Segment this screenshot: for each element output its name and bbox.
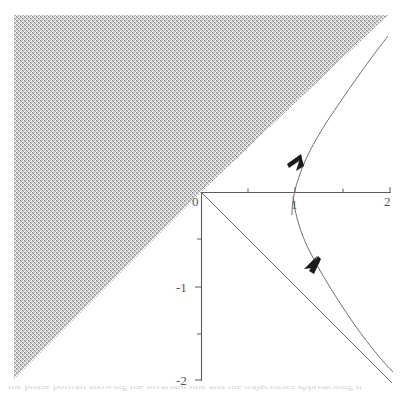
y-axis-ticks — [195, 239, 202, 380]
caption-strip: the phase portrait showing the invariant… — [0, 386, 402, 397]
x-tick-label-1: 1 — [291, 198, 298, 211]
figure-caption: the phase portrait showing the invariant… — [8, 386, 362, 391]
asymptote-line-negative-slope — [201, 192, 392, 383]
separatrix-lower-branch — [293, 196, 393, 372]
arrow-lower-icon — [304, 256, 321, 274]
x-tick-label-2: 2 — [384, 195, 391, 208]
x-axis-ticks — [248, 187, 390, 193]
y-tick-label-minus-1: -1 — [176, 281, 187, 294]
figure-container: 0 1 2 -1 -2 the phase portrait showing t… — [0, 0, 402, 397]
plot-canvas — [0, 0, 402, 397]
x-tick-label-0: 0 — [192, 195, 199, 208]
y-axis — [195, 192, 202, 381]
